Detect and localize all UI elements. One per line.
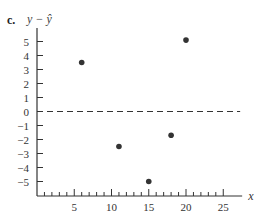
y-tick-label: 3 (24, 64, 30, 76)
x-tick-label: 25 (218, 201, 230, 213)
y-tick-label: 2 (24, 78, 30, 90)
y-tick-label: −2 (17, 134, 29, 146)
residual-scatter-plot: 543210−1−2−3−4−5510152025x (0, 0, 258, 222)
y-tick-label: 4 (24, 50, 30, 62)
y-tick-label: −1 (17, 120, 29, 132)
y-tick-label: 0 (24, 106, 30, 118)
x-tick-label: 10 (106, 201, 118, 213)
y-tick-label: 1 (24, 92, 30, 104)
x-tick-label: 15 (143, 201, 155, 213)
data-point (146, 179, 152, 185)
data-point (183, 37, 189, 43)
x-tick-label: 20 (181, 201, 193, 213)
y-tick-label: 5 (24, 36, 30, 48)
y-tick-label: −5 (17, 176, 29, 188)
x-tick-label: 5 (72, 201, 78, 213)
x-axis-label: x (247, 189, 254, 203)
y-tick-label: −3 (17, 148, 29, 160)
data-point (79, 60, 85, 66)
y-tick-label: −4 (17, 162, 29, 174)
data-point (168, 133, 174, 139)
data-point (116, 144, 122, 150)
